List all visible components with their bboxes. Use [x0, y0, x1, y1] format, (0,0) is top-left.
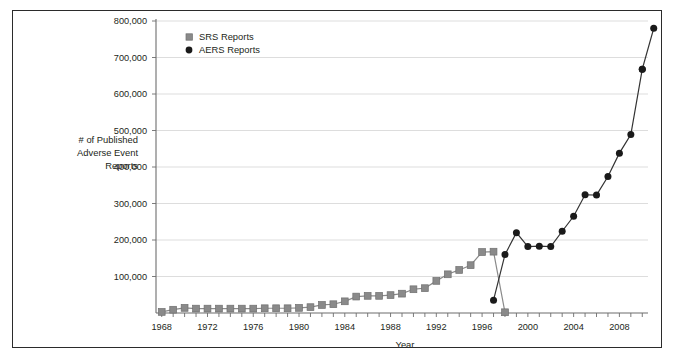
series-marker-circle [536, 243, 543, 250]
series-marker-square [364, 292, 371, 299]
series-marker-square [479, 249, 486, 256]
x-axis [152, 21, 648, 317]
series-marker-circle [513, 229, 520, 236]
series-marker-square [216, 305, 223, 312]
x-tick-label: 2004 [563, 322, 583, 332]
series-marker-circle [582, 191, 589, 198]
series-marker-circle [627, 131, 634, 138]
series-marker-square [158, 309, 165, 316]
series-marker-square [456, 267, 463, 274]
series-marker-square [399, 290, 406, 297]
series-marker-circle [501, 251, 508, 258]
x-tick-label: 2008 [609, 322, 629, 332]
series-marker-square [376, 292, 383, 299]
series-marker-square [296, 304, 303, 311]
data-series [158, 25, 657, 316]
series-marker-square [502, 309, 509, 316]
legend-label: SRS Reports [199, 31, 254, 42]
x-tick-label: 1976 [243, 322, 263, 332]
series-marker-square [330, 301, 337, 308]
legend-label: AERS Reports [199, 44, 260, 55]
y-tick-label: 700,000 [114, 53, 147, 63]
series-line [494, 69, 643, 300]
x-tick-labels: 1968197219761980198419881992199620002004… [151, 322, 629, 332]
series-marker-square [193, 305, 200, 312]
series-marker-circle [570, 213, 577, 220]
x-tick-label: 1992 [426, 322, 446, 332]
series-marker-square [238, 305, 245, 312]
series-marker-circle [593, 192, 600, 199]
y-axis-title-line: # of Published [79, 134, 138, 145]
grid-lines [156, 21, 648, 277]
series-marker-square [341, 298, 348, 305]
y-tick-label: 100,000 [114, 272, 147, 282]
series-marker-square [273, 305, 280, 312]
legend-marker-square [186, 34, 192, 40]
x-tick-label: 1996 [472, 322, 492, 332]
x-tick-label: 1984 [335, 322, 355, 332]
y-tick-label: 600,000 [114, 89, 147, 99]
series-marker-circle [639, 66, 646, 73]
legend-marker-circle [186, 47, 193, 54]
series-marker-circle [547, 243, 554, 250]
chart-legend: SRS ReportsAERS Reports [186, 31, 261, 55]
series-marker-square [433, 277, 440, 284]
y-tick-label: 200,000 [114, 235, 147, 245]
y-axis-title-line: Adverse Event [77, 147, 138, 158]
series-marker-square [387, 292, 394, 299]
x-tick-label: 1980 [289, 322, 309, 332]
x-axis-title: Year [396, 339, 415, 347]
x-axis-title: Year [396, 339, 415, 347]
series-marker-circle [650, 25, 657, 32]
series-marker-square [319, 302, 326, 309]
series-marker-circle [490, 297, 497, 304]
x-tick-label: 1968 [151, 322, 171, 332]
series-marker-square [353, 293, 360, 300]
series-marker-square [170, 306, 177, 313]
series-marker-square [307, 304, 314, 311]
series-marker-square [227, 305, 234, 312]
series-marker-circle [616, 150, 623, 157]
series-marker-square [284, 305, 291, 312]
series-marker-square [250, 305, 257, 312]
series-marker-square [204, 305, 211, 312]
series-marker-square [490, 248, 497, 255]
y-tick-label: 300,000 [114, 199, 147, 209]
y-axis-title-line: Reports [105, 160, 138, 171]
x-tick-label: 1988 [380, 322, 400, 332]
series-marker-square [181, 304, 188, 311]
series-marker-circle [604, 173, 611, 180]
series-marker-square [444, 271, 451, 278]
series-marker-square [410, 286, 417, 293]
x-tick-label: 2000 [518, 322, 538, 332]
series-line [642, 28, 653, 69]
adverse-event-reports-line-chart: 800,000700,000600,000500,000400,000300,0… [13, 11, 661, 347]
series-marker-square [421, 285, 428, 292]
x-tick-label: 1972 [197, 322, 217, 332]
series-marker-square [261, 305, 268, 312]
series-marker-square [467, 262, 474, 269]
series-marker-circle [524, 243, 531, 250]
figure-frame: 800,000700,000600,000500,000400,000300,0… [12, 10, 662, 348]
series-marker-circle [559, 228, 566, 235]
y-axis-title: # of PublishedAdverse EventReports [77, 134, 138, 171]
y-tick-label: 800,000 [114, 16, 147, 26]
